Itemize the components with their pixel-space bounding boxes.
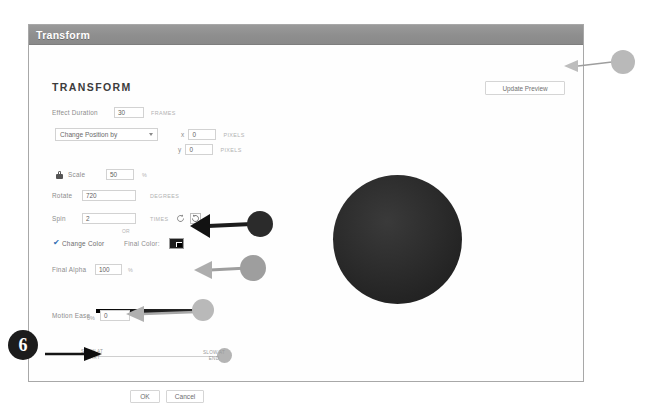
page-title: TRANSFORM [52,81,132,93]
motion-ease-slow-start-label: SLOW AT START [75,349,109,361]
ok-button[interactable]: OK [130,390,160,403]
change-position-dropdown-label: Change Position by [60,131,117,138]
rotate-unit: DEGREES [150,193,179,199]
rotate-clockwise-icon[interactable] [190,213,201,224]
dialog-titlebar: Transform [29,25,583,45]
annotation-dot-final-color [247,211,273,237]
final-alpha-label: Final Alpha [52,266,95,273]
annotation-dot-motion-ease [192,299,214,321]
change-color-row: ✔ Change Color Final Color: [53,238,184,249]
preview-object [333,175,462,304]
scale-row: Scale 50 % [56,169,147,180]
motion-ease-input[interactable]: 0 [100,310,130,321]
spin-input[interactable]: 2 [82,213,136,224]
checkmark-icon: ✔ [53,239,60,247]
or-separator-label: OR [122,228,130,234]
annotation-step-badge: 6 [8,330,38,360]
change-position-row: Change Position by x 0 PIXELS [55,128,245,141]
final-alpha-unit: % [128,267,133,273]
motion-ease-label: Motion Ease [52,312,100,319]
final-color-swatch[interactable] [169,238,184,249]
cancel-button[interactable]: Cancel [166,390,204,403]
annotation-dot-final-alpha [240,255,266,281]
dialog-body: TRANSFORM Update Preview Effect Duration… [29,45,583,381]
motion-ease-row: Motion Ease 0 [52,310,130,321]
effect-duration-unit: FRAMES [151,110,176,116]
effect-duration-row: Effect Duration 30 FRAMES [52,107,176,118]
change-color-label: Change Color [62,240,118,247]
screenshot-root: Transform TRANSFORM Update Preview Effec… [0,0,655,405]
scale-label: Scale [68,171,106,178]
lock-icon[interactable] [56,171,63,179]
position-y-axis-label: y [178,146,181,153]
position-y-input[interactable]: 0 [185,144,213,155]
update-preview-button[interactable]: Update Preview [485,81,565,95]
dialog-title: Transform [36,29,90,41]
rotate-label: Rotate [52,192,82,199]
final-color-label: Final Color: [124,240,164,247]
spin-row: Spin 2 TIMES [52,213,201,224]
position-x-unit: PIXELS [223,132,244,138]
rotate-counterclockwise-icon[interactable] [175,213,186,224]
final-alpha-row: Final Alpha 100 % [52,264,133,275]
position-x-input[interactable]: 0 [188,129,216,140]
annotation-dot-update-preview [611,50,635,74]
spin-unit: TIMES [150,216,168,222]
position-x-axis-label: x [181,131,184,138]
final-alpha-input[interactable]: 100 [95,264,122,275]
transform-dialog: Transform TRANSFORM Update Preview Effec… [28,24,584,382]
change-color-checkbox[interactable]: ✔ [53,240,60,247]
scale-unit: % [142,172,147,178]
effect-duration-input[interactable]: 30 [114,107,144,118]
chevron-down-icon [149,133,153,136]
rotate-row: Rotate 720 DEGREES [52,190,179,201]
effect-duration-label: Effect Duration [52,109,114,116]
position-y-row: y 0 PIXELS [178,144,242,155]
position-y-unit: PIXELS [220,147,241,153]
rotate-input[interactable]: 720 [82,190,136,201]
scale-input[interactable]: 50 [106,169,134,180]
spin-label: Spin [52,215,82,222]
change-position-dropdown[interactable]: Change Position by [55,128,158,141]
motion-ease-slow-end-label: SLOW AT END [201,350,227,362]
